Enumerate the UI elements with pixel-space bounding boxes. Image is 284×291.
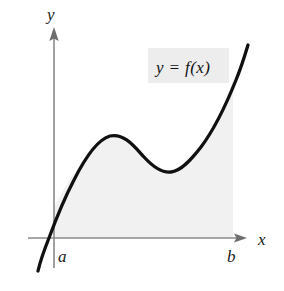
curve-label: y = f(x)	[154, 58, 210, 77]
y-axis-label: y	[45, 5, 55, 24]
area-under-curve-diagram: y = f(x) y x a b	[0, 0, 284, 291]
upper-bound-label-b: b	[227, 247, 236, 266]
x-axis-label: x	[257, 230, 266, 249]
shaded-area-region	[54, 80, 233, 238]
lower-bound-label-a: a	[58, 247, 67, 266]
figure-container: y = f(x) y x a b	[0, 0, 284, 291]
